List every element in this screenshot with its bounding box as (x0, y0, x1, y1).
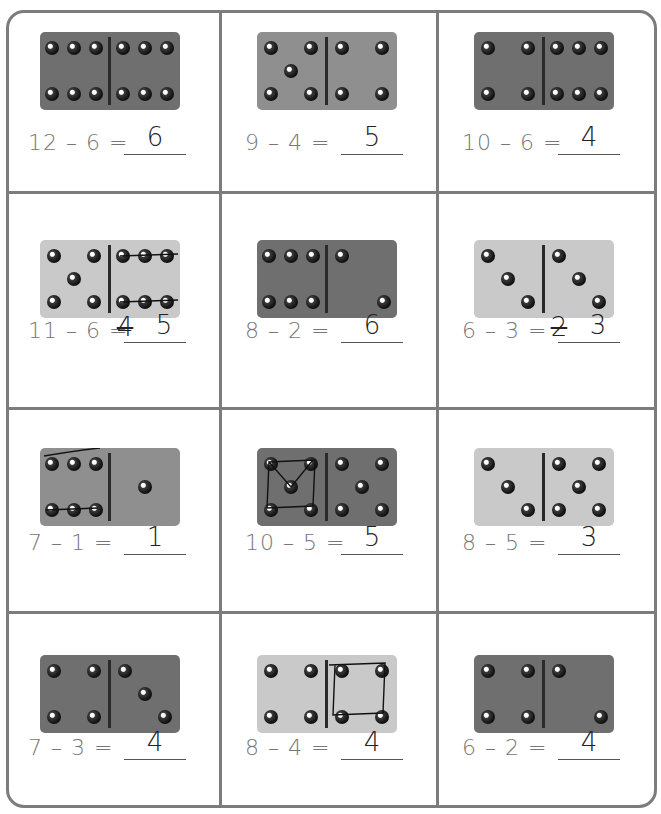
domino-pip-icon (67, 41, 81, 55)
domino-pip-icon (592, 503, 606, 517)
handwritten-answer[interactable]: 3 (578, 310, 618, 340)
domino-pip-icon (87, 710, 101, 724)
domino-pip-icon (552, 664, 566, 678)
domino-divider (542, 660, 545, 728)
domino-pip-icon (552, 503, 566, 517)
domino-pip-icon (572, 480, 586, 494)
domino-pip-icon (335, 710, 349, 724)
handwritten-answer[interactable]: 6 (341, 310, 403, 340)
domino-pip-icon (89, 41, 103, 55)
domino-pip-icon (45, 41, 59, 55)
domino-pip-icon (89, 87, 103, 101)
domino-pip-icon (572, 87, 586, 101)
answer-line (558, 554, 620, 555)
domino-image (257, 32, 397, 110)
domino-pip-icon (160, 295, 174, 309)
domino-pip-icon (552, 249, 566, 263)
domino-pip-icon (116, 87, 130, 101)
handwritten-answer[interactable]: 3 (558, 522, 620, 552)
domino-pip-icon (45, 87, 59, 101)
domino-pip-icon (264, 457, 278, 471)
domino-pip-icon (335, 249, 349, 263)
domino-pip-icon (306, 249, 320, 263)
answer-line (341, 554, 403, 555)
domino-pip-icon (118, 664, 132, 678)
domino-pip-icon (138, 87, 152, 101)
domino-pip-icon (67, 503, 81, 517)
domino-pip-icon (521, 41, 535, 55)
equation-text: 7 – 1 = (28, 530, 113, 555)
domino-pip-icon (87, 664, 101, 678)
domino-pip-icon (47, 664, 61, 678)
domino-image (40, 448, 180, 526)
domino-pip-icon (284, 295, 298, 309)
domino-pip-icon (304, 41, 318, 55)
domino-pip-icon (47, 249, 61, 263)
crossed-out-answer: 4 (110, 312, 140, 342)
domino-image (40, 240, 180, 318)
domino-pip-icon (138, 295, 152, 309)
domino-pip-icon (67, 272, 81, 286)
domino-pip-icon (264, 41, 278, 55)
equation-text: 8 – 4 = (245, 735, 330, 760)
domino-pip-icon (304, 664, 318, 678)
domino-divider (542, 245, 545, 313)
domino-pip-icon (594, 87, 608, 101)
answer-line (124, 154, 186, 155)
domino-pip-icon (284, 249, 298, 263)
domino-pip-icon (521, 503, 535, 517)
answer-line (124, 759, 186, 760)
grid-divider (6, 611, 657, 614)
grid-divider (6, 191, 657, 194)
domino-divider (542, 37, 545, 105)
answer-line (341, 342, 403, 343)
crossed-out-answer: 2 (544, 312, 574, 342)
domino-pip-icon (160, 41, 174, 55)
domino-pip-icon (87, 249, 101, 263)
domino-pip-icon (552, 457, 566, 471)
domino-pip-icon (550, 41, 564, 55)
domino-image (257, 655, 397, 733)
domino-pip-icon (592, 295, 606, 309)
domino-pip-icon (501, 272, 515, 286)
domino-pip-icon (67, 87, 81, 101)
equation-text: 12 – 6 = (28, 130, 128, 155)
domino-pip-icon (116, 249, 130, 263)
domino-image (257, 240, 397, 318)
domino-divider (542, 453, 545, 521)
handwritten-answer[interactable]: 4 (558, 122, 620, 152)
domino-pip-icon (116, 295, 130, 309)
handwritten-answer[interactable]: 1 (124, 522, 186, 552)
domino-pip-icon (47, 710, 61, 724)
domino-pip-icon (45, 503, 59, 517)
domino-pip-icon (262, 249, 276, 263)
domino-pip-icon (138, 687, 152, 701)
answer-line (558, 154, 620, 155)
domino-divider (108, 453, 111, 521)
domino-pip-icon (138, 41, 152, 55)
handwritten-answer[interactable]: 5 (341, 122, 403, 152)
domino-pip-icon (160, 87, 174, 101)
handwritten-answer[interactable]: 4 (124, 727, 186, 757)
domino-pip-icon (594, 710, 608, 724)
domino-pip-icon (262, 295, 276, 309)
domino-pip-icon (572, 41, 586, 55)
domino-pip-icon (335, 664, 349, 678)
handwritten-answer[interactable]: 5 (341, 522, 403, 552)
domino-pip-icon (304, 710, 318, 724)
handwritten-answer[interactable]: 4 (341, 727, 403, 757)
handwritten-answer[interactable]: 6 (124, 122, 186, 152)
domino-pip-icon (264, 710, 278, 724)
domino-pip-icon (67, 457, 81, 471)
domino-pip-icon (481, 249, 495, 263)
domino-pip-icon (375, 664, 389, 678)
domino-pip-icon (335, 41, 349, 55)
equation-text: 7 – 3 = (28, 735, 113, 760)
domino-pip-icon (335, 87, 349, 101)
domino-pip-icon (89, 503, 103, 517)
handwritten-answer[interactable]: 4 (558, 727, 620, 757)
handwritten-answer[interactable]: 5 (144, 310, 184, 340)
equation-text: 6 – 2 = (462, 735, 547, 760)
domino-image (40, 655, 180, 733)
domino-pip-icon (521, 87, 535, 101)
